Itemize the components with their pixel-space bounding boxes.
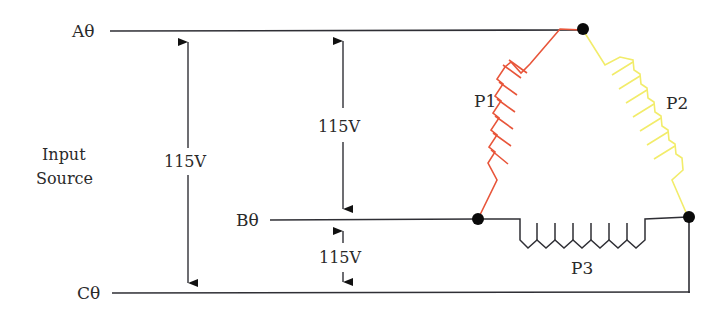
node-a: [577, 23, 589, 35]
source-label: Source: [36, 169, 93, 188]
voltage-label-bc: 115V: [319, 248, 362, 267]
phase-b-wire: [270, 219, 478, 220]
phase-a-label: Aθ: [71, 21, 95, 41]
delta-winding-diagram: Aθ Bθ Cθ Input Source 115V 115V 115V P1 …: [0, 0, 725, 321]
winding-p2-coil: [583, 30, 688, 217]
node-c: [683, 211, 695, 223]
phase-a-wire: [110, 30, 583, 31]
voltage-label-ac: 115V: [164, 152, 207, 171]
phase-c-label: Cθ: [77, 283, 100, 303]
winding-p3-label: P3: [571, 258, 593, 278]
phase-b-label: Bθ: [236, 210, 259, 230]
winding-p2-label: P2: [666, 93, 688, 113]
winding-p1-coil: [478, 29, 583, 219]
winding-p1-label: P1: [474, 91, 496, 111]
voltage-label-ab: 115V: [318, 117, 361, 136]
phase-c-wire: [112, 292, 690, 293]
input-label: Input: [42, 145, 86, 164]
winding-p3-coil: [478, 217, 688, 248]
node-b: [472, 213, 484, 225]
